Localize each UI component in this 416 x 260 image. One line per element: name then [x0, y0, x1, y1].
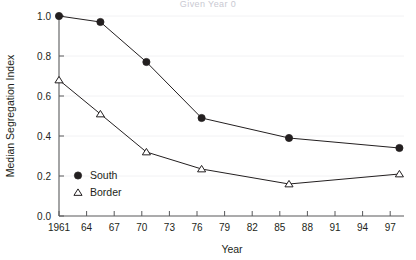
legend-marker-south [74, 172, 81, 179]
data-point-south [198, 114, 205, 121]
y-tick-label: 0.0 [37, 211, 51, 222]
x-tick-label: 82 [247, 222, 259, 233]
data-point-south [97, 18, 104, 25]
x-tick-label: 73 [164, 222, 176, 233]
x-tick-label: 97 [385, 222, 397, 233]
x-tick-label: 88 [302, 222, 314, 233]
x-tick-label: 76 [191, 222, 203, 233]
legend-label-border: Border [90, 186, 122, 198]
x-tick-label: 64 [81, 222, 93, 233]
data-point-south [55, 12, 62, 19]
x-tick-label: 70 [136, 222, 148, 233]
line-chart: Given Year 0 0.00.20.40.60.81.0 19616467… [0, 0, 416, 260]
y-tick-label: 0.6 [37, 91, 51, 102]
data-point-south [285, 134, 292, 141]
y-axis-title: Median Segregation Index [4, 54, 16, 177]
x-tick-label: 94 [357, 222, 369, 233]
x-tick-label: 1961 [48, 222, 71, 233]
x-tick-label: 79 [219, 222, 231, 233]
y-tick-label: 0.4 [37, 131, 51, 142]
legend-label-south: South [90, 169, 118, 181]
y-tick-label: 0.8 [37, 51, 51, 62]
y-tick-label: 1.0 [37, 11, 51, 22]
x-axis-title: Year [221, 243, 243, 255]
data-point-south [396, 144, 403, 151]
x-tick-label: 67 [109, 222, 121, 233]
y-tick-label: 0.2 [37, 171, 51, 182]
chart-container: Given Year 0 0.00.20.40.60.81.0 19616467… [0, 0, 416, 260]
chart-title: Given Year 0 [180, 0, 236, 9]
data-point-south [143, 58, 150, 65]
x-tick-label: 85 [274, 222, 286, 233]
chart-background [0, 0, 416, 260]
x-tick-label: 91 [329, 222, 341, 233]
